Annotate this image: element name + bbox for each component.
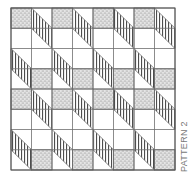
pattern-label: PATTERN 2 <box>178 128 190 172</box>
stipple-square <box>32 69 53 89</box>
shape-outlines <box>11 8 175 170</box>
stipple-square <box>114 69 135 89</box>
stipple-square <box>93 89 114 109</box>
quilt-pattern <box>0 0 196 179</box>
stipple-square <box>134 89 155 109</box>
stipple-square <box>134 8 155 28</box>
stipple-square <box>155 69 176 89</box>
stipple-square <box>73 150 94 170</box>
stipple-square <box>52 89 73 109</box>
stipple-square <box>73 69 94 89</box>
stipple-square <box>32 150 53 170</box>
stipple-square <box>93 8 114 28</box>
stipple-square <box>114 150 135 170</box>
stipple-square <box>11 8 32 28</box>
stipple-square <box>11 89 32 109</box>
stipple-square <box>155 150 176 170</box>
stipple-square <box>52 8 73 28</box>
